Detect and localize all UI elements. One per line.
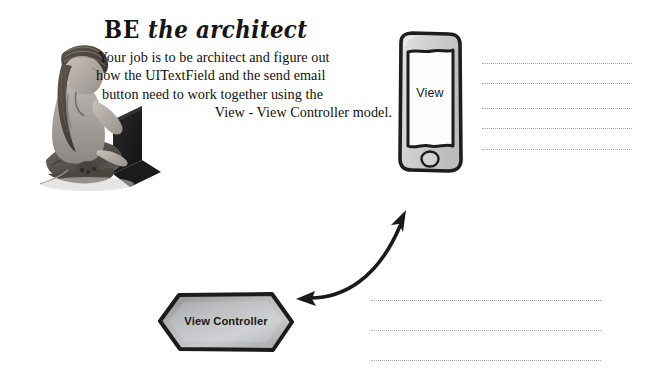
home-button [422,152,439,167]
answer-line-top-4[interactable] [482,128,632,129]
arrowhead-left [296,291,316,306]
view-controller-label: View Controller [154,315,298,327]
instruction-text: Your job is to be architect and figure o… [96,48,392,122]
photo-alt-text: Photo of a person sitting cross-legged i… [0,0,1,1]
answer-line-bottom-2[interactable] [371,330,601,331]
person-hands [77,161,99,175]
connector-arrow [288,172,438,312]
arrowhead-up [391,210,406,232]
view-phone-shape: View [392,28,468,178]
arrow-curve [310,226,400,298]
page-title: BE the architect [104,14,307,43]
answer-line-bottom-3[interactable] [371,360,601,361]
answer-line-top-3[interactable] [482,108,632,109]
answer-line-top-1[interactable] [482,63,632,64]
instruction-line-1: Your job is to be architect and figure o… [96,48,392,66]
instruction-line-4: View - View Controller model. [96,103,392,121]
answer-line-top-2[interactable] [482,83,632,84]
exercise-page: BE the architect Your job is to be archi… [0,0,657,385]
page-title-be: BE [104,14,140,43]
answer-line-bottom-1[interactable] [371,300,601,301]
instruction-line-3: button need to work together using the [96,85,392,103]
answer-line-top-5[interactable] [482,149,632,150]
page-title-rest: the architect [148,14,307,43]
view-controller-shape: View Controller [154,288,298,356]
instruction-line-2: how the UITextField and the send email [96,66,392,84]
view-label: View [392,86,468,100]
ground-shadow [42,177,134,191]
